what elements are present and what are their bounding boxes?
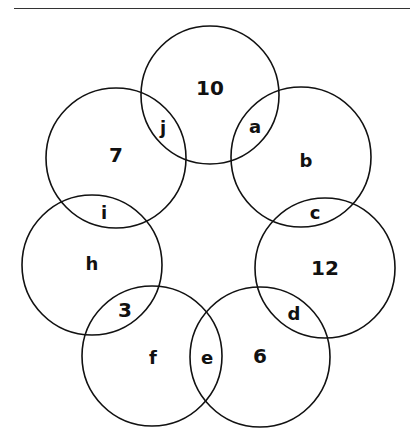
region-label: 7 <box>109 143 123 167</box>
region-label: c <box>310 202 321 223</box>
region-label: e <box>201 347 213 368</box>
region-label: i <box>101 202 107 223</box>
region-label: 3 <box>118 298 132 322</box>
region-label: 12 <box>311 256 339 280</box>
region-label: a <box>249 116 261 137</box>
labels-group: 10ja7bich123dfe6 <box>86 76 339 368</box>
region-label: d <box>288 303 301 324</box>
region-label: 6 <box>253 344 267 368</box>
region-label: j <box>159 117 166 138</box>
circle-chain-diagram: 10ja7bich123dfe6 <box>0 0 414 446</box>
region-label: f <box>149 347 157 368</box>
region-label: b <box>300 150 313 171</box>
region-label: h <box>86 253 99 274</box>
region-label: 10 <box>196 76 224 100</box>
